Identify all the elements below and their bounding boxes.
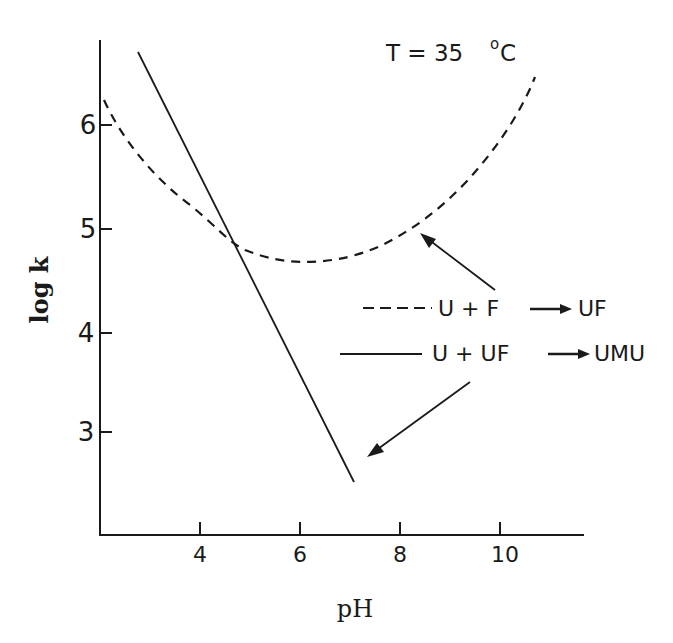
y-tick-labels: 6 5 4 3 — [78, 110, 97, 447]
series-u-plus-uf — [138, 52, 354, 482]
y-ticks — [100, 125, 112, 432]
arrow-to-solid — [367, 382, 470, 457]
x-tick-labels: 4 6 8 10 — [193, 542, 519, 567]
reaction-arrow-icon — [548, 349, 590, 359]
x-tick-label: 8 — [393, 542, 407, 567]
legend-lhs: U + F — [438, 296, 499, 321]
x-tick-label: 10 — [491, 542, 519, 567]
x-tick-label: 4 — [193, 542, 207, 567]
annotation-text: T = 35 — [385, 40, 463, 66]
y-tick-label: 6 — [80, 110, 97, 140]
x-tick-label: 6 — [293, 542, 307, 567]
y-tick-label: 5 — [80, 214, 97, 244]
temperature-annotation: T = 35 o C — [385, 35, 516, 66]
arrow-to-dashed — [420, 233, 495, 290]
x-ticks — [200, 522, 500, 535]
legend: U + F UF U + UF UMU — [340, 296, 645, 366]
legend-rhs: UMU — [594, 341, 645, 366]
legend-rhs: UF — [578, 296, 607, 321]
annotation-degree: o — [490, 35, 499, 53]
legend-item-dashed: U + F UF — [363, 296, 607, 321]
chart: 6 5 4 3 4 6 8 10 pH log k T = 35 o C — [0, 0, 673, 643]
reaction-arrow-icon — [530, 304, 572, 314]
legend-item-solid: U + UF UMU — [340, 341, 645, 366]
legend-lhs: U + UF — [432, 341, 509, 366]
annotation-unit: C — [500, 40, 516, 66]
y-tick-label: 3 — [78, 417, 95, 447]
x-axis-title: pH — [337, 595, 373, 623]
y-axis-title: log k — [25, 255, 54, 323]
y-tick-label: 4 — [78, 318, 95, 348]
series-u-plus-f — [104, 77, 535, 262]
